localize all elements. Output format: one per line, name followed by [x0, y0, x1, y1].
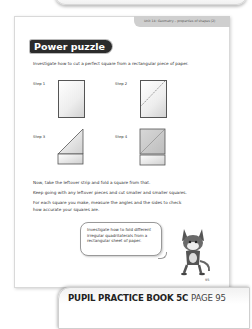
- step-3-label: Step 3: [33, 134, 45, 139]
- top-page-frame: [55, 0, 247, 5]
- step-1-paper-illustration: [58, 80, 85, 118]
- instruction-3: For each square you make, measure the an…: [33, 200, 181, 205]
- unit-tab: Unit 14: Geometry – properties of shapes…: [134, 16, 230, 27]
- intro-text: Investigate how to cut a perfect square …: [33, 61, 188, 66]
- section-title: Power puzzle: [30, 40, 112, 53]
- speech-bubble: Investigate how to fold different irregu…: [80, 222, 162, 256]
- step-2-label: Step 2: [115, 81, 127, 86]
- step-4-square-and-strip: [140, 128, 167, 168]
- step-1-label: Step 1: [33, 81, 45, 86]
- speech-line-3: rectangular sheet of paper.: [87, 238, 159, 244]
- step-2-fold-line: [141, 81, 166, 117]
- footer-book-title: PUPIL PRACTICE BOOK 5C: [68, 293, 188, 303]
- instruction-4: how accurate your squares are.: [33, 207, 99, 212]
- footer-page: PAGE 95: [191, 293, 226, 303]
- unit-label: Unit 14: Geometry – properties of shapes…: [144, 19, 215, 23]
- page-number: 95: [205, 278, 209, 282]
- speech-line-1: Investigate how to fold different: [87, 227, 159, 233]
- step-4-label: Step 4: [115, 134, 127, 139]
- instruction-2: Keep going with any leftover pieces and …: [33, 190, 187, 195]
- speech-bubble-text: Investigate how to fold different irregu…: [87, 227, 159, 244]
- cat-mascot-icon: [176, 227, 212, 277]
- step-3-folded-triangle: [58, 128, 85, 168]
- footer-caption: PUPIL PRACTICE BOOK 5CPAGE 95: [68, 293, 226, 303]
- instruction-1: Now, take the leftover strip and fold a …: [33, 180, 150, 185]
